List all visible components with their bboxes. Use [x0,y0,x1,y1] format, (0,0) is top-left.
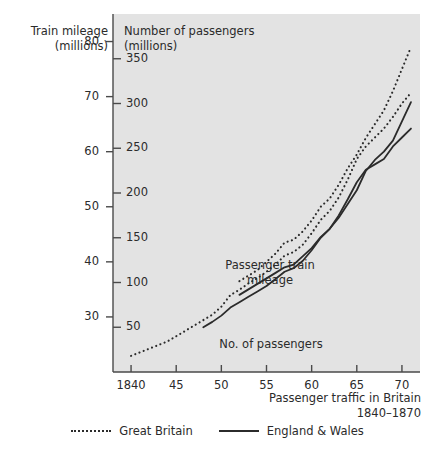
annotation-passenger-train-mileage: Passenger trainmileage [200,258,340,288]
left-tick-label-70: 70 [69,89,99,103]
legend-item-england-wales: England & Wales [219,424,364,438]
left-tick-label-50: 50 [69,199,99,213]
right-axis-title-line1: Number of passengers [124,24,254,38]
left-tick-label-30: 30 [69,309,99,323]
left-tick-label-60: 60 [69,144,99,158]
plot-background [113,14,420,372]
legend-label-great-britain: Great Britain [119,424,193,438]
x-tick-label-55: 55 [247,378,287,392]
left-tick-label-40: 40 [69,254,99,268]
inner-tick-label-150: 150 [126,230,148,244]
annotation-passengers-line1: No. of passengers [219,337,322,351]
inner-tick-label-300: 300 [126,96,148,110]
chart-legend: Great Britain England & Wales [0,424,435,438]
left-tick-label-80: 80 [69,34,99,48]
right-axis-title: Number of passengers(millions) [124,24,254,54]
x-tick-label-50: 50 [201,378,241,392]
x-axis-caption-line2: 1840–1870 [269,406,421,421]
inner-tick-label-200: 200 [126,185,148,199]
x-axis-caption-line1: Passenger traffic in Britain [269,391,421,405]
x-tick-label-45: 45 [156,378,196,392]
inner-tick-label-250: 250 [126,140,148,154]
x-tick-label-70: 70 [382,378,422,392]
legend-swatch-solid-icon [219,430,259,432]
chart-container: Train mileage(millions) Number of passen… [0,0,435,453]
inner-tick-label-50: 50 [126,319,141,333]
annotation-mileage-line1: Passenger train [225,258,314,272]
x-tick-label-1840: 1840 [111,378,151,392]
x-tick-label-60: 60 [292,378,332,392]
x-tick-label-65: 65 [337,378,377,392]
legend-item-great-britain: Great Britain [71,424,193,438]
inner-tick-label-100: 100 [126,275,148,289]
left-axis-ticks [106,42,113,317]
legend-swatch-dotted-icon [71,430,111,432]
inner-tick-label-350: 350 [126,51,148,65]
x-axis-caption: Passenger traffic in Britain1840–1870 [269,391,421,421]
annotation-mileage-line2: mileage [200,273,340,288]
annotation-no-of-passengers: No. of passengers [196,337,346,352]
legend-label-england-wales: England & Wales [267,424,364,438]
